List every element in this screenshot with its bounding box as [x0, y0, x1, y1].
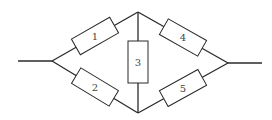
resistor-5: 5 — [159, 69, 206, 106]
bridge-circuit-diagram: 1 2 3 4 5 — [0, 0, 272, 120]
resistor-3: 3 — [128, 41, 148, 83]
resistor-2-label: 2 — [92, 82, 98, 93]
resistor-3-label: 3 — [135, 57, 141, 68]
circuit-canvas: 1 2 3 4 5 — [0, 0, 272, 120]
resistor-4: 4 — [159, 19, 206, 56]
resistor-1: 1 — [71, 17, 118, 54]
resistor-4-label: 4 — [180, 32, 186, 43]
resistor-1-label: 1 — [92, 31, 98, 42]
resistor-2: 2 — [72, 68, 119, 106]
resistor-5-label: 5 — [180, 83, 186, 94]
